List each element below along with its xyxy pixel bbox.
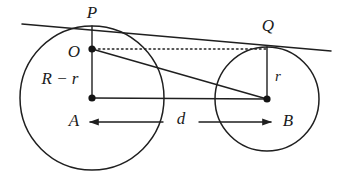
label-d: d	[177, 109, 186, 128]
label-P: P	[86, 3, 97, 22]
geometry-canvas: P Q O A B R − r r d	[0, 0, 337, 179]
label-R-minus-r: R − r	[41, 69, 79, 88]
label-O: O	[68, 42, 80, 61]
geometry-diagram: P Q O A B R − r r d	[0, 0, 337, 179]
label-A: A	[68, 111, 80, 130]
segment-O-B	[92, 49, 267, 99]
vertex-dot-A	[88, 94, 95, 101]
label-Q: Q	[262, 16, 274, 35]
vertex-dot-B	[263, 95, 270, 102]
label-B: B	[283, 111, 294, 130]
vertex-dot-O	[88, 45, 95, 52]
label-r: r	[275, 68, 281, 84]
segment-A-B	[92, 98, 267, 99]
